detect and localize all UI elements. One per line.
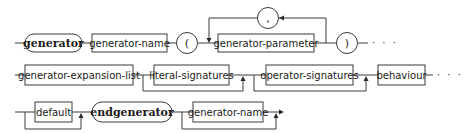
row-2: generator-expansion-list literal-signatu… [15, 65, 463, 91]
terminal-endgenerator: endgenerator [90, 102, 174, 122]
syntax-diagram: generator generator-name ( generator-par… [0, 0, 466, 133]
nonterminal-default-label: default [36, 107, 71, 118]
symbol-close-paren-label: ) [345, 37, 349, 50]
nonterminal-generator-name-end: generator-name [188, 102, 269, 122]
nonterminal-operator-signatures: operator-signatures [260, 65, 358, 85]
nonterminal-behaviour-label: behaviour [376, 70, 427, 81]
row-3: default endgenerator generator-name [15, 102, 284, 129]
nonterminal-generator-name-end-label: generator-name [188, 107, 269, 118]
continuation-dots: · · · [372, 37, 398, 48]
nonterminal-generator-expansion-list: generator-expansion-list [18, 65, 140, 85]
nonterminal-literal-signatures-label: literal-signatures [149, 70, 234, 81]
nonterminal-generator-parameter: generator-parameter [213, 34, 319, 52]
terminal-endgenerator-label: endgenerator [90, 106, 174, 119]
nonterminal-generator-name: generator-name [89, 34, 170, 52]
terminal-generator-label: generator [23, 37, 84, 50]
nonterminal-default: default [35, 102, 72, 122]
continuation-dots: · · · [437, 69, 463, 80]
terminal-generator: generator [23, 34, 84, 52]
nonterminal-generator-expansion-list-label: generator-expansion-list [18, 70, 140, 81]
row-1: generator generator-name ( generator-par… [15, 8, 398, 54]
symbol-close-paren: ) [337, 33, 358, 54]
nonterminal-literal-signatures: literal-signatures [149, 65, 234, 85]
nonterminal-generator-parameter-label: generator-parameter [213, 38, 319, 49]
symbol-comma: , [258, 8, 279, 29]
symbol-open-paren-label: ( [185, 37, 189, 50]
nonterminal-generator-name-label: generator-name [89, 38, 170, 49]
nonterminal-behaviour: behaviour [376, 65, 427, 85]
symbol-open-paren: ( [177, 33, 198, 54]
symbol-comma-label: , [266, 12, 270, 25]
nonterminal-operator-signatures-label: operator-signatures [260, 70, 358, 81]
